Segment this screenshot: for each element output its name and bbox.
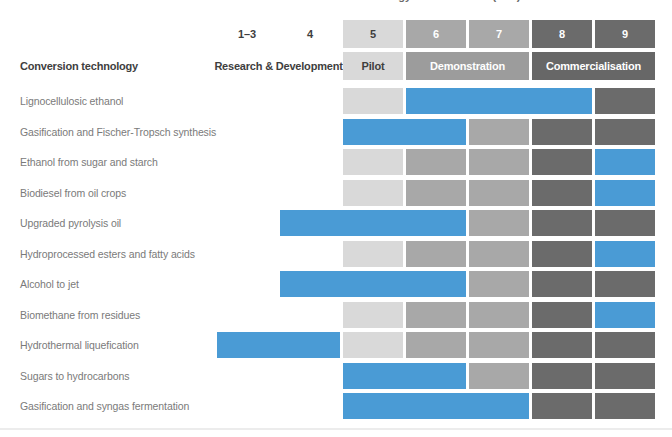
stage-header-pilot: Pilot xyxy=(343,52,403,80)
trl-bar xyxy=(343,393,529,419)
trl-cell-5 xyxy=(343,302,403,328)
trl-cell-7 xyxy=(469,363,529,389)
trl-cell-5 xyxy=(343,149,403,175)
trl-cell-7 xyxy=(469,241,529,267)
trl-number-6: 6 xyxy=(406,20,466,48)
trl-cell-8 xyxy=(532,119,592,145)
trl-cell-8 xyxy=(532,271,592,297)
trl-cell-9 xyxy=(595,271,655,297)
trl-cell-9 xyxy=(595,393,655,419)
chart-title-cropped: Technology readiness level (TRL) xyxy=(217,0,655,2)
cropped-title-clip: Technology readiness level (TRL) xyxy=(0,0,672,6)
trl-cell-6 xyxy=(406,180,466,206)
trl-number-4: 4 xyxy=(280,20,340,48)
trl-number-7: 7 xyxy=(469,20,529,48)
trl-number-9: 9 xyxy=(595,20,655,48)
trl-cell-8 xyxy=(532,210,592,236)
trl-cell-6 xyxy=(406,241,466,267)
trl-cell-7 xyxy=(469,302,529,328)
trl-cell-9 xyxy=(595,332,655,358)
trl-figure: Technology readiness level (TRL) Convers… xyxy=(0,0,672,437)
trl-cell-8 xyxy=(532,332,592,358)
trl-cell-8 xyxy=(532,363,592,389)
trl-cell-7 xyxy=(469,332,529,358)
trl-cell-8 xyxy=(532,180,592,206)
row-label: Hydrothermal liquefication xyxy=(20,332,139,358)
trl-cell-7 xyxy=(469,119,529,145)
trl-number-8: 8 xyxy=(532,20,592,48)
trl-cell-6 xyxy=(406,149,466,175)
trl-bar xyxy=(595,241,655,267)
stage-header-demo: Demonstration xyxy=(406,52,529,80)
row-label: Biomethane from residues xyxy=(20,302,140,328)
trl-cell-7 xyxy=(469,271,529,297)
trl-cell-9 xyxy=(595,210,655,236)
row-label: Sugars to hydrocarbons xyxy=(20,363,129,389)
trl-cell-7 xyxy=(469,180,529,206)
trl-bar xyxy=(406,88,592,114)
page-edge-line xyxy=(0,428,672,430)
trl-cell-9 xyxy=(595,88,655,114)
row-label: Lignocellulosic ethanol xyxy=(20,88,123,114)
trl-cell-7 xyxy=(469,149,529,175)
trl-bar xyxy=(280,271,466,297)
row-label: Ethanol from sugar and starch xyxy=(20,149,158,175)
trl-cell-8 xyxy=(532,241,592,267)
row-label: Alcohol to jet xyxy=(20,271,79,297)
trl-cell-9 xyxy=(595,363,655,389)
trl-bar xyxy=(217,332,340,358)
trl-cell-9 xyxy=(595,119,655,145)
row-label: Biodiesel from oil crops xyxy=(20,180,126,206)
row-label: Hydroprocessed esters and fatty acids xyxy=(20,241,195,267)
row-label: Upgraded pyrolysis oil xyxy=(20,210,121,236)
trl-cell-5 xyxy=(343,88,403,114)
stage-header-rd: Research & Development xyxy=(217,52,340,80)
trl-bar xyxy=(595,302,655,328)
trl-cell-8 xyxy=(532,393,592,419)
stage-header-comm: Commercialisation xyxy=(532,52,655,80)
conversion-technology-header: Conversion technology xyxy=(20,52,138,80)
row-label: Gasification and Fischer-Tropsch synthes… xyxy=(20,119,216,145)
trl-cell-6 xyxy=(406,332,466,358)
trl-cell-5 xyxy=(343,241,403,267)
trl-bar xyxy=(343,119,466,145)
trl-number-5: 5 xyxy=(343,20,403,48)
trl-bar xyxy=(343,363,466,389)
trl-cell-6 xyxy=(406,302,466,328)
trl-bar xyxy=(595,180,655,206)
trl-cell-5 xyxy=(343,332,403,358)
trl-cell-5 xyxy=(343,180,403,206)
row-label: Gasification and syngas fermentation xyxy=(20,393,189,419)
trl-cell-8 xyxy=(532,149,592,175)
trl-cell-8 xyxy=(532,302,592,328)
trl-number-1–3: 1–3 xyxy=(217,20,277,48)
trl-bar xyxy=(280,210,466,236)
trl-bar xyxy=(595,149,655,175)
trl-cell-7 xyxy=(469,210,529,236)
